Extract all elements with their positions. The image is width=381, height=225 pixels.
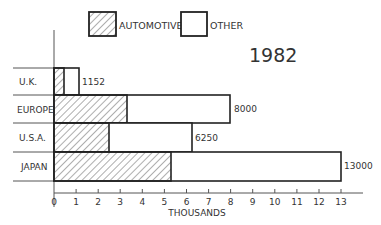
x-axis-title: THOUSANDS xyxy=(167,208,226,218)
bar-europe-total-label: 8000 xyxy=(234,104,257,114)
row-label-usa: U.S.A. xyxy=(19,133,46,143)
bar-uk: 1152 xyxy=(54,68,105,95)
bar-usa-automotive xyxy=(54,123,109,152)
x-tick-6: 6 xyxy=(184,197,190,207)
x-tick-10: 10 xyxy=(269,197,281,207)
bar-uk-automotive xyxy=(54,68,64,95)
row-label-uk: U.K. xyxy=(19,77,37,87)
category-labels: U.K. EUROPE U.S.A. JAPAN xyxy=(17,77,54,172)
x-tick-8: 8 xyxy=(228,197,234,207)
row-label-europe: EUROPE xyxy=(17,105,54,115)
bar-usa: 6250 xyxy=(54,123,218,152)
x-tick-4: 4 xyxy=(139,197,145,207)
x-tick-11: 11 xyxy=(291,197,302,207)
legend-other-swatch xyxy=(181,12,207,36)
x-tick-2: 2 xyxy=(95,197,101,207)
legend-automotive-swatch xyxy=(89,12,116,36)
legend: AUTOMOTIVE OTHER xyxy=(89,12,243,36)
bar-chart: AUTOMOTIVE OTHER 1982 U.K. EUROPE U.S.A.… xyxy=(0,0,381,225)
chart-title: 1982 xyxy=(249,44,297,66)
x-axis: 0 1 2 3 4 5 6 7 8 9 10 11 12 13 THOUSAND… xyxy=(51,189,363,218)
legend-automotive-label: AUTOMOTIVE xyxy=(119,20,183,31)
row-label-japan: JAPAN xyxy=(20,162,47,172)
legend-other-label: OTHER xyxy=(210,20,243,31)
x-tick-1: 1 xyxy=(73,197,79,207)
bar-europe-automotive xyxy=(54,95,127,123)
bar-usa-total-label: 6250 xyxy=(195,133,218,143)
bar-japan: 13000 xyxy=(54,152,373,181)
x-tick-13: 13 xyxy=(335,197,346,207)
x-tick-7: 7 xyxy=(206,197,212,207)
bar-europe: 8000 xyxy=(54,95,257,123)
x-tick-3: 3 xyxy=(117,197,123,207)
x-tick-0: 0 xyxy=(51,197,57,207)
x-tick-9: 9 xyxy=(250,197,256,207)
bar-uk-total-label: 1152 xyxy=(82,77,105,87)
x-tick-12: 12 xyxy=(313,197,324,207)
bar-japan-automotive xyxy=(54,152,171,181)
x-tick-5: 5 xyxy=(162,197,168,207)
bar-japan-total-label: 13000 xyxy=(344,161,373,171)
